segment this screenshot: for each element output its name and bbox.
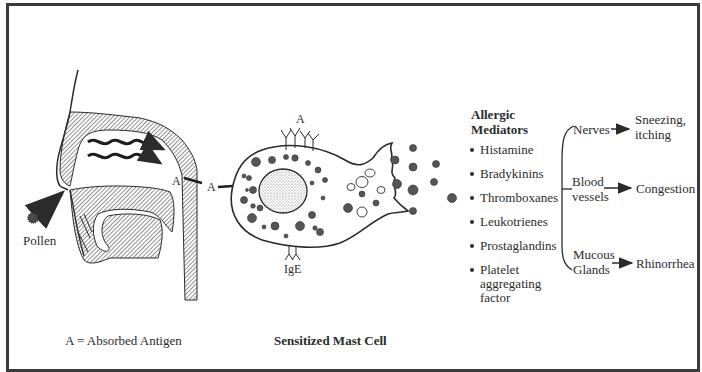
pollen-grain-icon [28, 213, 38, 223]
antigen-marker-nasal: A [172, 174, 181, 189]
effect-sneezing-line2: itching [635, 127, 686, 142]
pollen-label: Pollen [23, 233, 56, 248]
mast-cell-caption: Sensitized Mast Cell [274, 333, 387, 348]
mediators-list: Histamine Bradykinins Thromboxanes Leuko… [470, 143, 558, 305]
effect-rhinorrhea: Rhinorrhea [636, 256, 694, 271]
target-mucous-line2: Glands [573, 262, 615, 277]
target-nerves: Nerves [573, 122, 610, 137]
mediator-item: Thromboxanes [470, 191, 558, 215]
nucleus [259, 169, 307, 213]
mediator-item: Bradykinins [470, 167, 558, 191]
effect-sneezing-line1: Sneezing, [635, 112, 686, 127]
antigen-legend: A = Absorbed Antigen [65, 333, 182, 348]
target-nerves-label: Nerves [573, 122, 610, 137]
target-blood-line1: Blood [572, 174, 609, 189]
target-blood-line2: vessels [572, 189, 609, 204]
mediator-item: Histamine [470, 143, 558, 167]
mediators-heading: Allergic Mediators [471, 107, 528, 137]
mediator-item: Leukotrienes [470, 215, 558, 239]
mediator-item: Prostaglandins [470, 239, 558, 263]
antigen-marker-receptor: A [296, 112, 305, 127]
target-mucous-glands: Mucous Glands [573, 247, 615, 277]
mediators-heading-line2: Mediators [471, 122, 528, 137]
mast-cell [231, 128, 408, 260]
target-mucous-line1: Mucous [573, 247, 615, 262]
antigen-marker-connector: A [207, 180, 216, 195]
effect-rhinorrhea-label: Rhinorrhea [636, 256, 694, 271]
mediator-item: Platelet aggregating factor [470, 263, 550, 305]
mediators-heading-line1: Allergic [471, 107, 528, 122]
effect-congestion: Congestion [636, 181, 695, 196]
effect-congestion-label: Congestion [636, 181, 695, 196]
effect-sneezing-itching: Sneezing, itching [635, 112, 686, 142]
target-blood-vessels: Blood vessels [572, 174, 609, 204]
ige-label: IgE [284, 262, 301, 277]
